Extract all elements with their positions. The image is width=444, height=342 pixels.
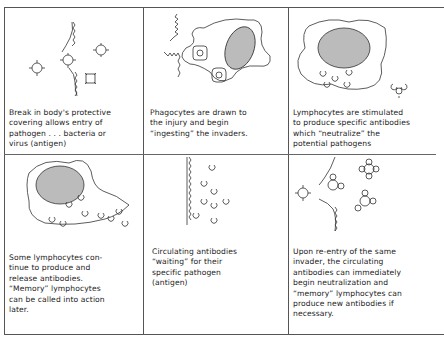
panel-5-caption: Circulating antibodies “waiting” for the…: [152, 247, 237, 289]
panel-6-caption: Upon re-entry of the same invader, the c…: [293, 247, 402, 320]
panel-4-caption: Some lymphocytes con- tinue to produce a…: [9, 253, 105, 315]
panel-2: Phagocytes are drawn to the injury and b…: [144, 8, 288, 154]
panel-1: Break in body's protective covering allo…: [5, 8, 143, 154]
panel-3: Lymphocytes are stimulated to produce sp…: [289, 8, 436, 154]
panel-2-caption: Phagocytes are drawn to the injury and b…: [150, 108, 248, 139]
circulating-antibodies-illustration: [144, 155, 288, 245]
panel-3-caption: Lymphocytes are stimulated to produce sp…: [293, 108, 410, 150]
lymphocyte-releasing-antibodies-illustration: [5, 155, 143, 255]
panel-4: Some lymphocytes con- tinue to produce a…: [5, 155, 143, 335]
panel-5: Circulating antibodies “waiting” for the…: [144, 155, 288, 335]
phagocyte-ingesting-antigens-illustration: [144, 8, 288, 98]
skin-break-with-antigens-illustration: [5, 8, 143, 98]
lymphocyte-producing-antibodies-illustration: [289, 8, 436, 98]
panel-6: Upon re-entry of the same invader, the c…: [289, 155, 436, 335]
panel-1-caption: Break in body's protective covering allo…: [9, 108, 111, 150]
antibodies-neutralizing-antigens-illustration: [289, 155, 436, 245]
